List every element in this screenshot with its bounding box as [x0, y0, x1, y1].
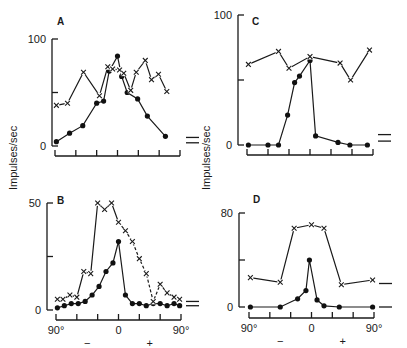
data-point-dot — [285, 113, 290, 118]
y-tick-label: 100 — [28, 33, 46, 45]
y-tick-label: 80 — [221, 207, 233, 219]
data-point-cross — [164, 290, 170, 296]
data-point-cross — [142, 58, 148, 64]
data-point-cross — [53, 102, 59, 108]
panel-a-chart: A0100 — [28, 16, 199, 156]
data-point-cross — [338, 282, 344, 288]
data-point-cross — [109, 200, 115, 206]
y-tick-label: 0 — [226, 139, 232, 151]
data-point-dot — [303, 288, 308, 293]
data-point-dot — [297, 74, 302, 79]
data-point-dot — [278, 304, 283, 309]
figure-canvas: Impulses/sec Impulses/sec A0100 B05090°0… — [0, 0, 407, 348]
data-point-dot — [76, 301, 81, 306]
data-point-cross — [60, 296, 66, 302]
positive-sign: + — [147, 337, 153, 348]
data-point-dot — [292, 80, 297, 85]
data-point-cross — [276, 49, 282, 55]
data-point-cross — [143, 271, 149, 277]
data-point-dot — [145, 113, 150, 118]
data-point-dot — [265, 142, 270, 147]
data-point-cross — [171, 294, 177, 300]
data-point-dot — [115, 54, 120, 59]
series-line — [250, 260, 372, 307]
panel-label: C — [252, 16, 259, 27]
data-point-dot — [158, 301, 163, 306]
data-point-dot — [96, 284, 101, 289]
data-point-cross — [157, 281, 163, 287]
data-point-cross — [348, 77, 354, 83]
data-point-dot — [347, 142, 352, 147]
data-point-cross — [307, 54, 313, 60]
data-point-dot — [337, 304, 342, 309]
data-point-cross — [136, 256, 142, 262]
panel-label: B — [57, 195, 64, 206]
data-point-dot — [314, 297, 319, 302]
data-point-cross — [286, 65, 292, 71]
data-point-dot — [295, 296, 300, 301]
x-tick-label: 0 — [115, 324, 121, 336]
data-point-dot — [110, 260, 115, 265]
data-point-dot — [165, 303, 170, 308]
data-point-cross — [123, 228, 129, 234]
data-point-cross — [247, 275, 253, 281]
data-point-dot — [144, 303, 149, 308]
data-point-cross — [177, 296, 183, 302]
data-point-cross — [321, 225, 327, 231]
data-point-cross — [74, 294, 80, 300]
data-point-cross — [95, 200, 101, 206]
data-point-cross — [88, 271, 94, 277]
data-point-dot — [321, 303, 326, 308]
series-line — [57, 203, 118, 299]
data-point-dot — [83, 299, 88, 304]
data-point-cross — [121, 70, 127, 76]
data-point-dot — [103, 269, 108, 274]
y-tick-label: 0 — [35, 304, 41, 316]
x-tick-label: 90° — [173, 324, 190, 336]
x-tick-label: 90° — [366, 322, 383, 334]
panel-d-chart: D08090°090°−+ — [221, 194, 392, 347]
data-point-dot — [135, 96, 140, 101]
data-point-dot — [313, 133, 318, 138]
data-point-dot — [101, 98, 106, 103]
negative-sign: − — [277, 335, 283, 347]
data-point-cross — [133, 69, 139, 75]
data-point-cross — [164, 89, 170, 95]
data-point-cross — [150, 299, 156, 305]
data-point-dot — [370, 304, 375, 309]
data-point-cross — [370, 277, 376, 283]
data-point-cross — [128, 87, 134, 93]
data-point-cross — [337, 60, 343, 66]
x-tick-label: 90° — [241, 322, 258, 334]
data-point-dot — [137, 301, 142, 306]
data-point-cross — [291, 225, 297, 231]
data-point-cross — [81, 269, 87, 275]
data-point-dot — [55, 305, 60, 310]
negative-sign: − — [84, 337, 90, 348]
series-line — [248, 61, 367, 146]
data-point-dot — [248, 304, 253, 309]
data-point-cross — [156, 71, 162, 77]
data-point-cross — [110, 66, 116, 72]
y-axis-label-right: Impulses/sec — [200, 125, 212, 190]
series-line — [250, 225, 372, 285]
data-point-dot — [123, 292, 128, 297]
data-point-cross — [309, 222, 315, 228]
panel-b-chart: B05090°090°−+ — [29, 195, 199, 348]
data-point-dot — [365, 142, 370, 147]
data-point-dot — [54, 139, 59, 144]
data-point-cross — [129, 239, 135, 245]
data-point-dot — [94, 101, 99, 106]
y-tick-label: 0 — [227, 301, 233, 313]
data-point-cross — [65, 100, 71, 106]
data-point-cross — [102, 207, 108, 213]
y-tick-label: 100 — [214, 9, 232, 21]
panel-c-chart: C0100 — [214, 9, 391, 155]
data-point-dot — [130, 301, 135, 306]
data-point-cross — [367, 47, 373, 53]
data-point-dot — [163, 134, 168, 139]
data-point-cross — [67, 292, 73, 298]
data-point-cross — [54, 296, 60, 302]
panel-label: D — [253, 194, 260, 205]
data-point-dot — [276, 142, 281, 147]
